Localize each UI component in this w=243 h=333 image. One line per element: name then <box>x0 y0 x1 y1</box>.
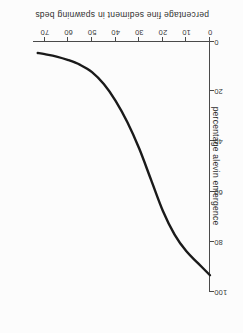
x-ticklabel-20: 20 <box>158 28 167 37</box>
x-ticklabel-50: 50 <box>88 28 97 37</box>
y-ticklabel-100: 100 <box>214 288 227 297</box>
y-ticklabel-20: 20 <box>214 87 223 96</box>
y-ticklabel-0: 0 <box>214 38 218 47</box>
x-tick-60 <box>67 37 68 42</box>
x-ticklabel-30: 30 <box>135 28 144 37</box>
x-axis-title: percentage fine sediment in spawning bed… <box>35 10 209 20</box>
plot-area: 100 80 60 40 20 0 0 10 20 30 40 50 60 70… <box>33 41 210 292</box>
x-tick-20 <box>162 37 163 42</box>
emergence-curve <box>33 41 210 292</box>
x-tick-10 <box>185 37 186 42</box>
x-tick-50 <box>91 37 92 42</box>
x-ticklabel-60: 60 <box>64 28 73 37</box>
y-ticklabel-80: 80 <box>214 237 223 246</box>
curve-path <box>38 53 210 275</box>
x-tick-70 <box>44 37 45 42</box>
x-tick-0 <box>209 37 210 42</box>
x-ticklabel-70: 70 <box>40 28 49 37</box>
chart-figure: 100 80 60 40 20 0 0 10 20 30 40 50 60 70… <box>0 0 243 333</box>
x-ticklabel-10: 10 <box>182 28 191 37</box>
x-tick-30 <box>138 37 139 42</box>
y-axis-title: percentage alevin emergence <box>211 107 221 226</box>
x-ticklabel-0: 0 <box>208 28 212 37</box>
x-ticklabel-40: 40 <box>111 28 120 37</box>
x-tick-40 <box>115 37 116 42</box>
